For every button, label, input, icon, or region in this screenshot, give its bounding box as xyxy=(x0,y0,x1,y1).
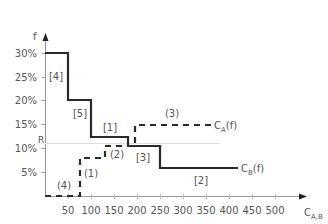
svg-text:(3): (3) xyxy=(165,108,179,119)
reference-label-r: R xyxy=(38,135,44,145)
svg-text:5%: 5% xyxy=(21,167,37,178)
x-tick-labels: 50 100 150 200 250 300 350 400 450 500 xyxy=(62,205,285,216)
y-axis-label: f xyxy=(33,31,37,42)
svg-text:400: 400 xyxy=(219,205,238,216)
segment-labels: [4] [5] [1] [3] [2] (4) (1) (2) (3) xyxy=(49,71,208,191)
series-ca-label: CA(f) xyxy=(214,120,237,134)
svg-text:20%: 20% xyxy=(15,95,37,106)
chart: f CA,B 30% 25% 20% 15% 10% 5% 50 100 150… xyxy=(0,0,328,224)
x-axis-label: CA,B xyxy=(304,207,323,221)
series-cb-label: CB(f) xyxy=(241,163,264,177)
svg-text:50: 50 xyxy=(62,205,75,216)
svg-text:10%: 10% xyxy=(15,143,37,154)
svg-text:150: 150 xyxy=(104,205,123,216)
svg-text:500: 500 xyxy=(265,205,284,216)
svg-text:250: 250 xyxy=(150,205,169,216)
svg-text:[5]: [5] xyxy=(73,108,87,119)
x-axis-arrow-icon xyxy=(299,194,307,200)
svg-text:100: 100 xyxy=(81,205,100,216)
svg-text:25%: 25% xyxy=(15,72,37,83)
svg-text:(1): (1) xyxy=(84,168,98,179)
svg-text:30%: 30% xyxy=(15,48,37,59)
svg-text:200: 200 xyxy=(127,205,146,216)
svg-text:[1]: [1] xyxy=(103,122,117,133)
svg-text:(4): (4) xyxy=(57,180,71,191)
svg-text:[4]: [4] xyxy=(49,71,63,82)
svg-text:350: 350 xyxy=(196,205,215,216)
y-tick-labels: 30% 25% 20% 15% 10% 5% xyxy=(15,48,37,178)
y-ticks xyxy=(42,54,45,173)
svg-text:[3]: [3] xyxy=(136,152,150,163)
y-axis-arrow-icon xyxy=(43,33,49,41)
svg-text:(2): (2) xyxy=(110,149,124,160)
svg-text:300: 300 xyxy=(173,205,192,216)
svg-text:[2]: [2] xyxy=(194,175,208,186)
svg-text:450: 450 xyxy=(242,205,261,216)
svg-text:15%: 15% xyxy=(15,119,37,130)
